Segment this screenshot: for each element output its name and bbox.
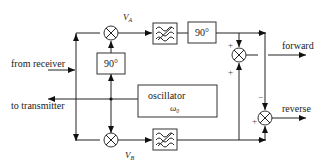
phase-shift-left-label: 90°	[104, 58, 118, 69]
oscillator-label: oscillator	[148, 90, 186, 101]
forward-label: forward	[282, 40, 314, 51]
to-transmitter-label: to transmitter	[11, 100, 65, 111]
from-receiver-label: from receiver	[11, 58, 66, 69]
summer-forward	[232, 48, 246, 62]
lowpass-filter-bottom	[153, 129, 177, 150]
junction-dot	[109, 97, 112, 100]
svg-text:−: −	[258, 92, 263, 102]
mixer-a	[104, 26, 118, 40]
summer-reverse	[258, 111, 272, 125]
lowpass-filter-top	[153, 23, 177, 44]
oscillator-freq: ω₀	[170, 103, 179, 113]
vb-label: VB	[125, 150, 135, 161]
va-label: VA	[123, 12, 133, 23]
svg-text:+: +	[252, 116, 257, 126]
svg-text:+: +	[228, 67, 233, 77]
phase-shift-top-label: 90°	[195, 27, 209, 38]
reverse-label: reverse	[282, 103, 311, 114]
mixer-b	[104, 133, 118, 147]
quadrature-demodulator-diagram: from receiver to transmitter 90° VA 90°	[0, 0, 325, 163]
svg-text:+: +	[228, 40, 233, 50]
